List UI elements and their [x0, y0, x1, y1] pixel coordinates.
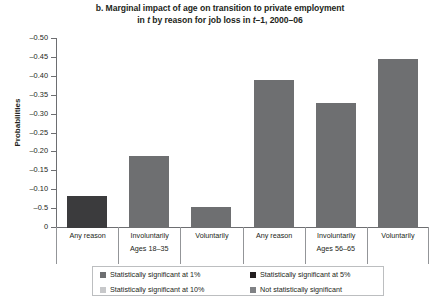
bar-chart: b. Marginal impact of age on transition … — [0, 0, 429, 308]
y-axis-title: Probabilities — [13, 73, 22, 173]
bar — [67, 196, 107, 228]
x-axis-category-label: Any reason — [244, 231, 305, 240]
legend-swatch — [100, 287, 106, 293]
legend-item: Statistically significant at 10% — [100, 285, 250, 294]
legend-swatch — [250, 272, 256, 278]
chart-title-line1: b. Marginal impact of age on transition … — [96, 3, 345, 13]
chart-title: b. Marginal impact of age on transition … — [30, 3, 410, 26]
chart-title-line2-part2: by reason for job loss in — [150, 15, 253, 25]
y-axis-tick-label: –0.15 — [2, 165, 48, 174]
chart-title-line2-part1: in — [137, 15, 147, 25]
y-axis-tick-label: –0.10 — [2, 184, 48, 193]
y-axis-tick-label: –0.50 — [2, 33, 48, 42]
chart-title-line2-part3: –1, 2000–06 — [256, 15, 303, 25]
bar — [254, 80, 294, 228]
y-axis-tick-label: 0 — [2, 222, 48, 231]
x-axis-category-label: Voluntarily — [368, 231, 428, 240]
x-axis-category-label: Any reason — [57, 231, 118, 240]
bar — [129, 156, 169, 228]
legend-swatch — [250, 287, 256, 293]
y-axis-tick-label: –0.5 — [2, 203, 48, 212]
legend-label: Statistically significant at 1% — [110, 270, 200, 279]
x-axis-group-label: Ages 18–35 — [56, 244, 243, 253]
bar — [191, 207, 231, 228]
bar — [378, 59, 418, 228]
x-axis-group-label: Ages 56–65 — [243, 244, 429, 253]
y-axis-tick-label: –0.45 — [2, 52, 48, 61]
legend-label: Not statistically significant — [260, 285, 342, 294]
y-axis-tick-label: –0.25 — [2, 128, 48, 137]
y-axis-tick-label: –0.35 — [2, 90, 48, 99]
x-axis-categories: Any reasonInvoluntarilyVoluntarilyAny re… — [56, 227, 429, 264]
x-axis-category-label: Involuntarily — [119, 231, 180, 240]
legend-item: Statistically significant at 5% — [250, 270, 392, 279]
legend-item: Not statistically significant — [250, 285, 392, 294]
x-axis-category-label: Voluntarily — [181, 231, 242, 240]
legend: Statistically significant at 1%Statistic… — [92, 266, 384, 296]
legend-label: Statistically significant at 10% — [110, 285, 204, 294]
y-axis-tick-label: –0.20 — [2, 146, 48, 155]
x-axis-category-label: Involuntarily — [306, 231, 367, 240]
bar — [316, 103, 356, 228]
legend-label: Statistically significant at 5% — [260, 270, 350, 279]
plot-area — [56, 38, 429, 228]
legend-swatch — [100, 272, 106, 278]
y-axis-tick-label: –0.30 — [2, 109, 48, 118]
legend-item: Statistically significant at 1% — [100, 270, 250, 279]
y-axis-tick-label: –0.40 — [2, 71, 48, 80]
